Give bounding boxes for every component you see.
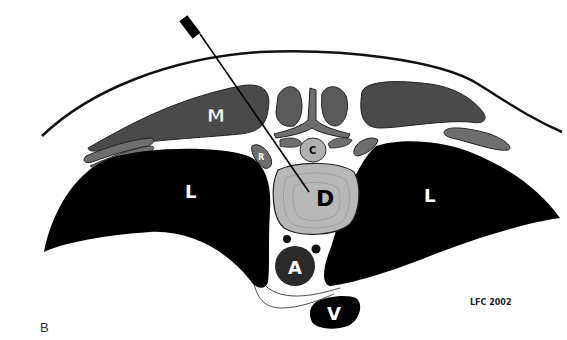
transverse-left bbox=[280, 138, 302, 147]
label-rib: R bbox=[258, 153, 264, 162]
vessel-small-left bbox=[283, 235, 291, 243]
credit-text: LFC 2002 bbox=[470, 298, 511, 307]
label-disc: D bbox=[316, 186, 334, 211]
label-cord: C bbox=[309, 145, 316, 156]
anatomy-diagram: M R C D L L A V bbox=[0, 0, 567, 340]
lung-left bbox=[44, 149, 270, 288]
label-muscle: M bbox=[207, 105, 225, 126]
vertebra-lamina-right bbox=[322, 87, 348, 126]
lung-right bbox=[324, 141, 560, 286]
transverse-right bbox=[328, 138, 352, 148]
needle-hub-icon bbox=[179, 15, 200, 39]
panel-letter: B bbox=[40, 320, 49, 335]
vessel-small-right bbox=[312, 245, 321, 254]
vertebra-lamina-left bbox=[276, 87, 302, 127]
muscle-right bbox=[361, 82, 485, 128]
label-lung-left: L bbox=[185, 181, 196, 202]
label-lung-right: L bbox=[424, 185, 435, 206]
label-aorta: A bbox=[288, 257, 302, 278]
label-vena-cava: V bbox=[327, 303, 341, 324]
skin-outline bbox=[42, 51, 562, 136]
